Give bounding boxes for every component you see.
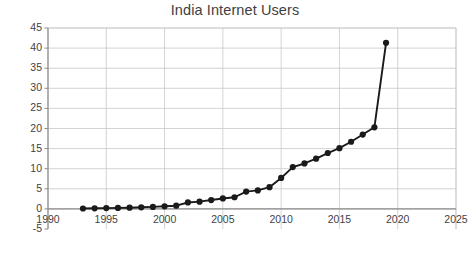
data-point-marker xyxy=(301,160,307,166)
x-axis-tick-label: 2000 xyxy=(143,213,187,225)
data-point-marker xyxy=(208,197,214,203)
data-point-marker xyxy=(196,199,202,205)
x-axis-tick-label: 2005 xyxy=(201,213,245,225)
y-axis-tick-label: 40 xyxy=(8,41,42,53)
data-point-marker xyxy=(371,124,377,130)
data-point-marker xyxy=(231,194,237,200)
y-axis-tick-label: 25 xyxy=(8,101,42,113)
data-point-marker xyxy=(278,175,284,181)
data-point-marker xyxy=(360,131,366,137)
y-axis-tick-label: 45 xyxy=(8,21,42,33)
x-axis-tick-label: 2015 xyxy=(317,213,361,225)
data-point-marker xyxy=(336,145,342,151)
y-axis-tick-label: 20 xyxy=(8,122,42,134)
data-point-marker xyxy=(348,139,354,145)
x-axis-tick-label: 2025 xyxy=(434,213,470,225)
data-point-marker xyxy=(185,199,191,205)
data-point-marker xyxy=(103,205,109,211)
data-point-marker xyxy=(383,40,389,46)
y-axis-tick-label: 35 xyxy=(8,61,42,73)
data-point-marker xyxy=(325,150,331,156)
y-axis-tick-label: 10 xyxy=(8,162,42,174)
x-axis-tick-label: 2020 xyxy=(376,213,420,225)
data-point-marker xyxy=(138,204,144,210)
chart-container: India Internet Users -505101520253035404… xyxy=(0,0,470,259)
data-point-marker xyxy=(290,164,296,170)
x-axis-tick-label: 2010 xyxy=(259,213,303,225)
y-axis-tick-label: 15 xyxy=(8,142,42,154)
y-axis-tick-label: 5 xyxy=(8,182,42,194)
data-point-marker xyxy=(150,204,156,210)
data-point-marker xyxy=(220,195,226,201)
x-axis-tick-label: 1990 xyxy=(26,213,70,225)
data-point-marker xyxy=(173,203,179,209)
data-point-marker xyxy=(243,189,249,195)
series-line-india-internet-users xyxy=(83,43,386,209)
data-point-marker xyxy=(127,205,133,211)
data-point-marker xyxy=(255,187,261,193)
y-axis-tick-label: 30 xyxy=(8,81,42,93)
data-point-marker xyxy=(80,205,86,211)
x-axis-tick-label: 1995 xyxy=(84,213,128,225)
data-point-marker xyxy=(313,156,319,162)
data-point-marker xyxy=(161,203,167,209)
data-point-marker xyxy=(115,205,121,211)
data-point-marker xyxy=(266,184,272,190)
data-point-marker xyxy=(92,205,98,211)
